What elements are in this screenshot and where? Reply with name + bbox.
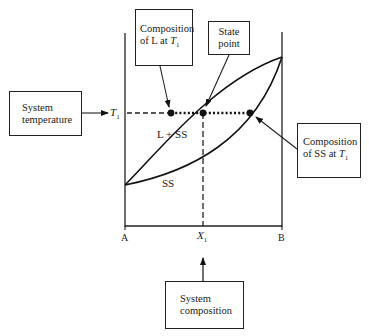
solid-composition-point [247,110,254,117]
axis-label-X1: X1 [197,229,207,244]
region-label-solid: SS [162,177,174,189]
callout-system-temperature: System temperature [9,91,82,136]
callout-state-point: State point [208,21,250,55]
arrow-state-point [206,55,229,106]
liquid-composition-point [168,110,175,117]
axis-label-B: B [278,232,285,243]
arrow-comp-SS [256,117,297,149]
callout-composition-of-SS: Composition of SS at T1 [297,123,361,178]
state-point [200,110,207,117]
axis-label-A: A [121,232,128,243]
solidus-curve [125,57,282,185]
liquidus-curve [125,57,282,185]
axis-label-T1: T1 [110,106,120,121]
arrow-comp-L [160,66,169,107]
region-label-two-phase: L + SS [157,128,187,140]
callout-system-composition: System composition [165,281,244,329]
callout-composition-of-L: Composition of L at T1 [135,9,193,66]
